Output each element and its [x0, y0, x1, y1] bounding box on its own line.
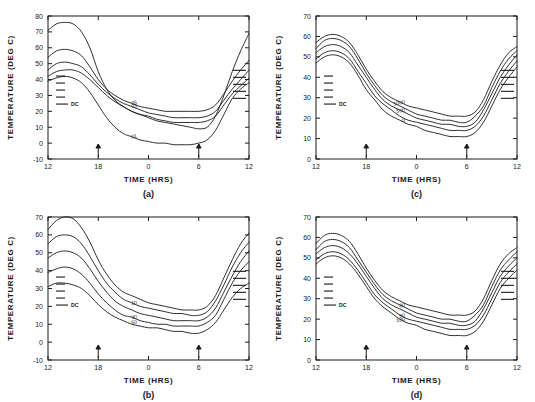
y-tick-label: 20 [35, 303, 43, 310]
x-tick-label: 6 [465, 364, 469, 371]
x-tick-label: 6 [197, 163, 201, 170]
y-tick-label: 20 [303, 316, 311, 323]
y-tick-label: -10 [33, 357, 43, 364]
y-tick-label: 70 [303, 13, 311, 20]
x-tick-label: 12 [513, 364, 521, 371]
y-tick-label: 70 [303, 214, 311, 221]
y-tick-label: 50 [35, 60, 43, 67]
y-tick-label: 0 [39, 339, 43, 346]
y-tick-label: 30 [35, 285, 43, 292]
x-tick-label: 0 [415, 163, 419, 170]
time-arrow-18 [196, 345, 201, 358]
y-tick-label: 10 [35, 321, 43, 328]
time-arrow-6 [364, 345, 369, 358]
x-tick-label: 12 [44, 163, 52, 170]
x-tick-label: 18 [94, 364, 102, 371]
panel-label-d: (d) [411, 390, 423, 400]
y-tick-label: 0 [307, 357, 311, 364]
x-axis-title: TIME (HRS) [124, 175, 174, 184]
y-tick-label: 10 [303, 336, 311, 343]
time-arrow-18 [464, 144, 469, 157]
x-tick-label: 12 [245, 364, 253, 371]
chart-panel-a: -100102030405060708012180612050301DCTIME… [0, 0, 267, 201]
y-tick-label: 40 [35, 76, 43, 83]
y-tick-label: 40 [303, 275, 311, 282]
plot-area-a: -100102030405060708012180612050301DCTIME… [6, 13, 253, 200]
x-tick-label: 12 [245, 163, 253, 170]
chart-panel-b: -1001020304050607012180612103050DCTIME (… [0, 201, 267, 402]
time-arrow-18 [464, 345, 469, 358]
time-arrow-6 [96, 345, 101, 358]
y-tick-label: 30 [303, 295, 311, 302]
curve-c-5 [316, 55, 517, 137]
curve-b-4 [48, 262, 249, 327]
curve-a-4 [48, 70, 249, 123]
y-tick-label: 20 [303, 115, 311, 122]
curve-label-c-5: 0 [401, 117, 405, 123]
x-tick-label: 12 [44, 364, 52, 371]
y-tick-label: -10 [33, 156, 43, 163]
y-tick-label: 50 [303, 53, 311, 60]
y-tick-label: 40 [303, 74, 311, 81]
y-axis-title: TEMPERATURE (DEG C) [6, 236, 15, 341]
panel-label-c: (c) [411, 189, 422, 199]
legend-dc-label: DC [71, 101, 79, 107]
curve-label-b-2: 10 [131, 299, 138, 306]
curve-label-a-3: 03 [131, 102, 138, 109]
x-tick-label: 6 [197, 364, 201, 371]
y-tick-label: 50 [303, 254, 311, 261]
y-tick-label: 10 [35, 124, 43, 131]
curve-label-c-3: 500 [396, 107, 406, 114]
curve-label-b-5: 50 [131, 319, 138, 326]
x-tick-label: 12 [513, 163, 521, 170]
figure-root: -100102030405060708012180612050301DCTIME… [0, 0, 535, 402]
x-tick-label: 0 [147, 163, 151, 170]
y-tick-label: 70 [35, 214, 43, 221]
x-tick-label: 18 [362, 163, 370, 170]
y-tick-label: 0 [39, 140, 43, 147]
y-tick-label: 50 [35, 249, 43, 256]
x-tick-label: 0 [415, 364, 419, 371]
curve-label-d-5: 100 [396, 316, 406, 323]
x-axis-title: TIME (HRS) [392, 376, 442, 385]
y-axis-title: TEMPERATURE (DEG C) [6, 35, 15, 140]
x-tick-label: 18 [362, 364, 370, 371]
curve-a-5 [48, 76, 249, 144]
chart-panel-d: 010203040506070121806128090100DCTIME (HR… [268, 201, 535, 402]
curve-c-4 [316, 51, 517, 131]
y-axis-title: TEMPERATURE (DEG C) [274, 35, 283, 140]
y-tick-label: 60 [35, 231, 43, 238]
curve-label-d-2: 80 [399, 301, 406, 308]
chart-panel-c: 0102030405060701218061210005000DCTIME (H… [268, 0, 535, 201]
x-axis-title: TIME (HRS) [124, 376, 174, 385]
x-axis-title: TIME (HRS) [392, 175, 442, 184]
x-tick-label: 6 [465, 163, 469, 170]
plot-area-d: 010203040506070121806128090100DCTIME (HR… [274, 214, 521, 401]
y-tick-label: 60 [303, 234, 311, 241]
curve-d-5 [316, 256, 517, 336]
y-tick-label: 10 [303, 135, 311, 142]
y-tick-label: 30 [303, 94, 311, 101]
legend-dc-label: DC [339, 302, 347, 308]
curve-label-c-1: 1000 [393, 98, 406, 106]
y-tick-label: 70 [35, 28, 43, 35]
x-tick-label: 0 [147, 364, 151, 371]
x-tick-label: 12 [312, 163, 320, 170]
panel-label-a: (a) [143, 189, 154, 199]
y-tick-label: 60 [303, 33, 311, 40]
curve-d-3 [316, 246, 517, 326]
y-axis-title: TEMPERATURE (DEG C) [274, 236, 283, 341]
x-tick-label: 18 [94, 163, 102, 170]
plot-area-b: -1001020304050607012180612103050DCTIME (… [6, 214, 253, 401]
legend-dc-label: DC [339, 101, 347, 107]
y-tick-label: 0 [307, 156, 311, 163]
x-tick-label: 12 [312, 364, 320, 371]
y-tick-label: 80 [35, 13, 43, 20]
y-tick-label: 40 [35, 267, 43, 274]
legend-dc-label: DC [71, 302, 79, 308]
curve-label-a-5: 01 [131, 132, 138, 139]
panel-label-b: (b) [143, 390, 155, 400]
time-arrow-18 [196, 144, 201, 157]
time-arrow-6 [364, 144, 369, 157]
time-arrow-6 [96, 144, 101, 157]
